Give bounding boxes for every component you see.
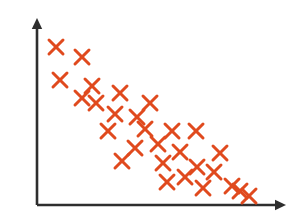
data-point-marker [189, 124, 203, 138]
data-point-marker [89, 96, 103, 110]
data-point-marker [53, 73, 67, 87]
data-point-marker [75, 91, 89, 105]
data-point-marker [75, 50, 89, 64]
y-axis-arrowhead-icon [32, 18, 42, 29]
data-point-marker [151, 137, 165, 151]
data-point-marker [128, 141, 142, 155]
data-point-marker [178, 170, 192, 184]
data-point-marker [165, 124, 179, 138]
scatter-plot-figure [0, 0, 302, 222]
data-point-marker [101, 124, 115, 138]
plot-canvas [0, 0, 302, 222]
axes-group [32, 18, 286, 210]
data-point-marker [49, 40, 63, 54]
data-point-marker [113, 86, 127, 100]
data-point-marker [143, 96, 157, 110]
data-markers-group [49, 40, 256, 203]
data-point-marker [173, 145, 187, 159]
data-point-marker [156, 156, 170, 170]
data-point-marker [196, 181, 210, 195]
data-point-marker [108, 107, 122, 121]
data-point-marker [213, 146, 227, 160]
x-axis-arrowhead-icon [275, 200, 286, 210]
data-point-marker [115, 154, 129, 168]
data-point-marker [160, 175, 174, 189]
data-point-marker [207, 165, 221, 179]
